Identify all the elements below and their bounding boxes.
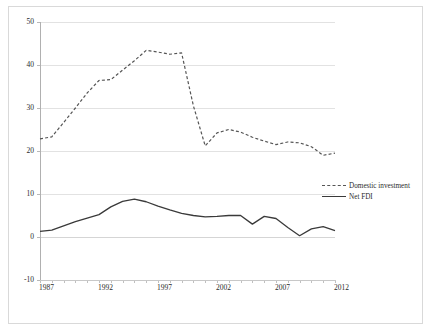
chart-legend: Domestic investment Net FDI xyxy=(322,180,426,204)
legend-item-domestic-investment: Domestic investment xyxy=(322,180,426,191)
series-path-net-fdi xyxy=(40,199,335,236)
chart-screenshot: 50403020100-10 198719921997200220072012 … xyxy=(0,0,431,334)
solid-line-icon xyxy=(322,196,346,197)
dashed-line-icon xyxy=(322,185,346,186)
series-lines xyxy=(0,0,431,334)
legend-label-net-fdi: Net FDI xyxy=(349,193,373,201)
series-path-domestic-investment xyxy=(40,50,335,155)
legend-item-net-fdi: Net FDI xyxy=(322,191,426,202)
legend-label-domestic-investment: Domestic investment xyxy=(349,182,410,190)
